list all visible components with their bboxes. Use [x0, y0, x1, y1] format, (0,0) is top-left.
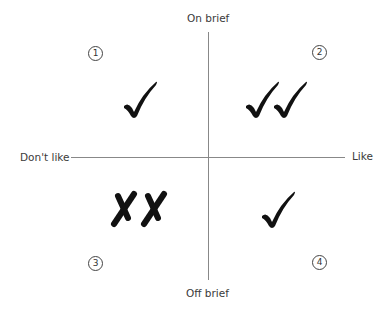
cross-icon: [110, 190, 140, 226]
quadrant-number-3: 3: [88, 256, 103, 271]
quadrant-number-4: 4: [312, 255, 327, 270]
quadrant-number-2: 2: [312, 45, 327, 60]
axis-label-top: On brief: [187, 12, 229, 24]
cross-icon: [140, 190, 170, 226]
vertical-axis: [208, 32, 209, 280]
quadrant-diagram: On brief Off brief Don't like Like 1 2 3…: [0, 0, 387, 309]
check-icon: [258, 188, 298, 230]
check-icon: [120, 78, 160, 120]
axis-label-bottom: Off brief: [186, 287, 229, 299]
axis-label-left: Don't like: [20, 151, 70, 163]
quadrant-number-1: 1: [88, 46, 103, 61]
axis-label-right: Like: [352, 150, 373, 162]
check-icon: [270, 78, 310, 120]
